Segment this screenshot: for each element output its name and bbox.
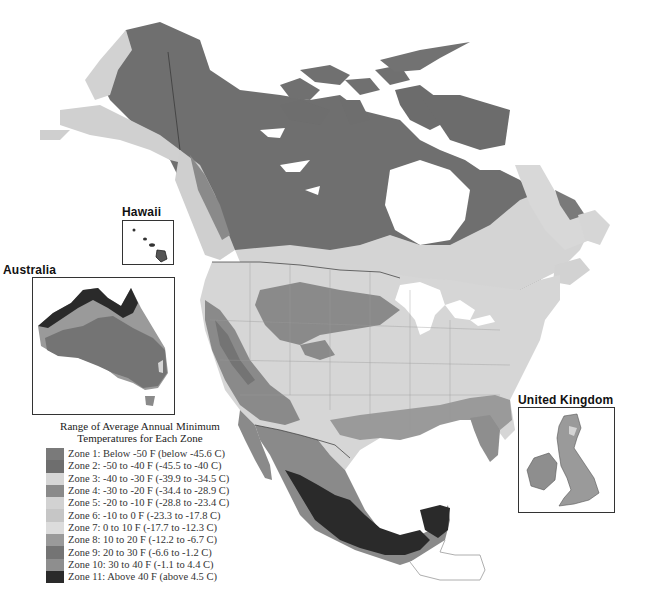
zone-label: Zone 6: -10 to 0 F (-23.3 to -17.8 C) xyxy=(68,510,221,522)
zone-swatch xyxy=(46,534,64,546)
zone-legend: Range of Average Annual Minimum Temperat… xyxy=(40,420,260,583)
zone-label: Zone 10: 30 to 40 F (-1.1 to 4.4 C) xyxy=(68,559,214,571)
zone-label: Zone 11: Above 40 F (above 4.5 C) xyxy=(68,571,217,583)
zone-label: Zone 1: Below -50 F (below -45.6 C) xyxy=(68,448,225,460)
legend-title-line1: Range of Average Annual Minimum xyxy=(40,420,240,432)
zone-swatch xyxy=(46,546,64,558)
legend-rows: Zone 1: Below -50 F (below -45.6 C) Zone… xyxy=(46,448,260,583)
legend-row-zone-7: Zone 7: 0 to 10 F (-17.7 to -12.3 C) xyxy=(46,522,260,534)
uk-inset xyxy=(518,407,615,513)
zone-swatch xyxy=(46,448,64,460)
legend-row-zone-3: Zone 3: -40 to -30 F (-39.9 to -34.5 C) xyxy=(46,473,260,485)
legend-row-zone-10: Zone 10: 30 to 40 F (-1.1 to 4.4 C) xyxy=(46,559,260,571)
zone-swatch xyxy=(46,522,64,534)
australia-inset-title: Australia xyxy=(3,263,56,277)
australia-inset xyxy=(32,277,175,415)
zone-swatch xyxy=(46,509,64,521)
zone-label: Zone 4: -30 to -20 F (-34.4 to -28.9 C) xyxy=(68,485,229,497)
zone-label: Zone 5: -20 to -10 F (-28.8 to -23.4 C) xyxy=(68,497,229,509)
legend-row-zone-6: Zone 6: -10 to 0 F (-23.3 to -17.8 C) xyxy=(46,509,260,521)
zone-label: Zone 3: -40 to -30 F (-39.9 to -34.5 C) xyxy=(68,473,229,485)
zone-label: Zone 7: 0 to 10 F (-17.7 to -12.3 C) xyxy=(68,522,217,534)
zone-swatch xyxy=(46,559,64,571)
zone-label: Zone 2: -50 to -40 F (-45.5 to -40 C) xyxy=(68,460,221,472)
legend-row-zone-9: Zone 9: 20 to 30 F (-6.6 to -1.2 C) xyxy=(46,546,260,558)
zone-label: Zone 8: 10 to 20 F (-12.2 to -6.7 C) xyxy=(68,534,217,546)
zone-swatch xyxy=(46,497,64,509)
zone-swatch xyxy=(46,473,64,485)
hawaii-inset-title: Hawaii xyxy=(122,205,161,219)
legend-row-zone-2: Zone 2: -50 to -40 F (-45.5 to -40 C) xyxy=(46,460,260,472)
zone-label: Zone 9: 20 to 30 F (-6.6 to -1.2 C) xyxy=(68,547,212,559)
zone-swatch xyxy=(46,571,64,583)
hawaii-inset xyxy=(122,220,174,265)
legend-row-zone-4: Zone 4: -30 to -20 F (-34.4 to -28.9 C) xyxy=(46,485,260,497)
legend-row-zone-11: Zone 11: Above 40 F (above 4.5 C) xyxy=(46,571,260,583)
zone-swatch xyxy=(46,460,64,472)
legend-row-zone-1: Zone 1: Below -50 F (below -45.6 C) xyxy=(46,448,260,460)
uk-map xyxy=(519,408,614,512)
legend-title-line2: Temperatures for Each Zone xyxy=(40,432,240,444)
legend-row-zone-5: Zone 5: -20 to -10 F (-28.8 to -23.4 C) xyxy=(46,497,260,509)
zone-swatch xyxy=(46,485,64,497)
legend-row-zone-8: Zone 8: 10 to 20 F (-12.2 to -6.7 C) xyxy=(46,534,260,546)
uk-inset-title: United Kingdom xyxy=(518,393,613,407)
hawaii-islands xyxy=(123,221,173,264)
australia-map xyxy=(33,278,174,414)
